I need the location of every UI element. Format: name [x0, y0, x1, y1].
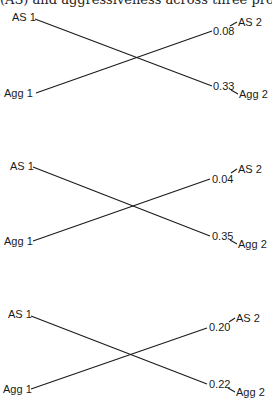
- node-agg1: Agg 1: [4, 87, 33, 99]
- coef-as1-agg2: 0.22: [209, 378, 230, 390]
- node-agg1: Agg 1: [4, 235, 33, 247]
- node-as1: AS 1: [12, 11, 36, 23]
- path-agg1-as2: [33, 179, 210, 241]
- node-as1: AS 1: [10, 160, 34, 172]
- cross-lagged-diagram: AS 1 Agg 1 0.08 AS 2 0.33 Agg 2 AS 1 Agg…: [0, 0, 272, 402]
- node-as2: AS 2: [236, 312, 260, 324]
- leader-as2: [231, 169, 237, 173]
- leader-agg2: [230, 240, 237, 244]
- node-as2: AS 2: [238, 163, 262, 175]
- path-as1-agg2: [35, 19, 212, 86]
- coef-agg1-as2: 0.08: [213, 25, 234, 37]
- node-agg2: Agg 2: [239, 88, 268, 100]
- node-agg2: Agg 2: [236, 386, 265, 398]
- coef-agg1-as2: 0.20: [209, 321, 230, 333]
- panel-1: AS 1 Agg 1 0.08 AS 2 0.33 Agg 2: [4, 11, 268, 100]
- leader-agg2: [231, 90, 238, 94]
- panel-3: AS 1 Agg 1 0.20 AS 2 0.22 Agg 2: [3, 308, 265, 398]
- node-agg1: Agg 1: [3, 383, 32, 395]
- node-as1: AS 1: [8, 308, 32, 320]
- leader-as2: [229, 318, 235, 322]
- path-as1-agg2: [31, 316, 207, 384]
- path-agg1-as2: [31, 328, 207, 389]
- path-agg1-as2: [36, 31, 212, 93]
- panel-2: AS 1 Agg 1 0.04 AS 2 0.35 Agg 2: [4, 160, 267, 250]
- leader-agg2: [228, 388, 235, 392]
- node-agg2: Agg 2: [238, 238, 267, 250]
- coef-agg1-as2: 0.04: [212, 173, 233, 185]
- path-as1-agg2: [33, 167, 210, 236]
- node-as2: AS 2: [238, 16, 262, 28]
